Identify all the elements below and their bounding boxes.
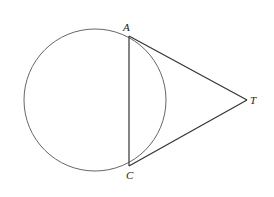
- circle: [24, 29, 166, 171]
- geometry-diagram: A C T: [0, 0, 274, 197]
- label-t: T: [250, 94, 257, 106]
- label-a: A: [122, 21, 130, 33]
- tangent-ct: [129, 100, 247, 166]
- tangent-at: [129, 36, 247, 100]
- label-c: C: [126, 169, 134, 181]
